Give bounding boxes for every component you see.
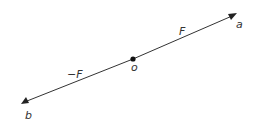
label-a: a: [236, 18, 243, 31]
line-of-action: [21, 13, 237, 104]
label-b: b: [25, 109, 32, 122]
label-F: F: [179, 25, 186, 38]
label-origin: o: [131, 61, 138, 74]
label-minus-F: −F: [67, 68, 83, 81]
force-diagram: F −F o a b: [0, 0, 259, 125]
